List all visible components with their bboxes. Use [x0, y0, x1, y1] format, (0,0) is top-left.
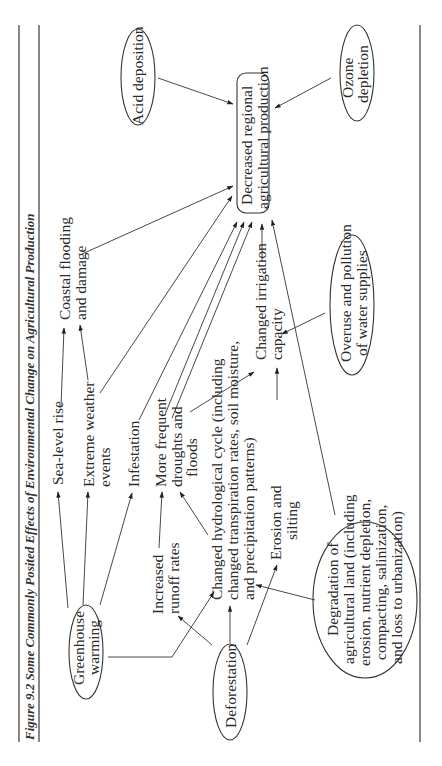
svg-text:Decreased regional: Decreased regional — [238, 86, 255, 205]
svg-text:of water supplies: of water supplies — [353, 250, 370, 356]
diagram-canvas: Figure 9.2 Some Commonly Posited Effects… — [0, 0, 442, 766]
node-coastal-flooding: Coastal flooding and damage — [56, 217, 89, 320]
edges — [58, 78, 335, 657]
svg-text:warming: warming — [85, 620, 102, 675]
node-decreased-production: Decreased regional agricultural producti… — [237, 66, 271, 213]
svg-text:Changed irrigation: Changed irrigation — [252, 243, 269, 360]
svg-text:and loss to urbanization): and loss to urbanization) — [388, 511, 406, 664]
svg-text:silting: silting — [283, 501, 300, 540]
svg-text:Coastal flooding: Coastal flooding — [56, 217, 73, 320]
svg-text:agricultural production: agricultural production — [254, 66, 271, 209]
svg-text:Overuse and pollution: Overuse and pollution — [337, 224, 354, 362]
node-degradation-land: Degradation of agricultural land (includ… — [313, 494, 417, 678]
svg-text:depletion: depletion — [354, 45, 371, 103]
node-overuse-water: Overuse and pollution of water supplies — [330, 224, 374, 375]
svg-text:Acid deposition: Acid deposition — [129, 26, 146, 125]
node-extreme-weather: Extreme weather events — [80, 381, 113, 487]
node-increased-runoff: Increased runoff rates — [149, 542, 182, 614]
node-sea-level-rise: Sea-level rise — [49, 401, 66, 485]
node-infestation: Infestation — [125, 420, 142, 487]
node-changed-irrigation: Changed irrigation capacity — [252, 243, 285, 360]
node-erosion-silting: Erosion and silting — [267, 485, 300, 560]
svg-text:Erosion and: Erosion and — [267, 485, 284, 560]
svg-text:erosion, nutrient depletion,: erosion, nutrient depletion, — [356, 499, 373, 666]
svg-text:events: events — [96, 447, 113, 487]
svg-text:floods: floods — [183, 438, 200, 477]
node-acid-deposition: Acid deposition — [121, 26, 155, 125]
node-deforestation: Deforestation — [213, 643, 247, 740]
figure-title: Figure 9.2 Some Commonly Posited Effects… — [22, 213, 37, 741]
svg-text:and damage: and damage — [72, 245, 89, 320]
node-ozone-depletion: Ozone depletion — [339, 25, 374, 121]
svg-text:runoff rates: runoff rates — [165, 542, 182, 614]
node-greenhouse-warming: Greenhouse warming — [69, 605, 103, 699]
svg-text:Deforestation: Deforestation — [222, 643, 239, 728]
node-hydrological-cycle: Changed hydrological cycle (including ch… — [208, 341, 258, 600]
svg-text:compacting, salinization,: compacting, salinization, — [372, 505, 389, 660]
svg-text:changed transpiration rates, s: changed transpiration rates, soil moistu… — [224, 341, 241, 600]
svg-text:Extreme weather: Extreme weather — [80, 381, 97, 487]
svg-text:and precipitation patterns): and precipitation patterns) — [240, 437, 258, 600]
svg-text:Increased: Increased — [149, 554, 166, 614]
svg-text:Degradation of: Degradation of — [324, 542, 341, 636]
